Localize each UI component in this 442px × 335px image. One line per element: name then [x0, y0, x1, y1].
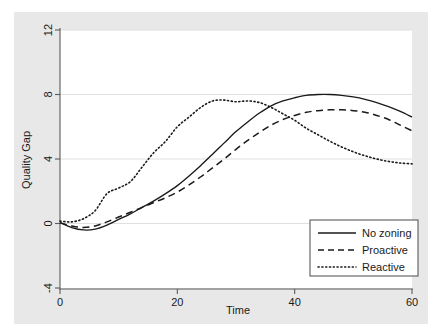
- legend-label-reactive: Reactive: [362, 261, 405, 273]
- legend-label-no-zoning: No zoning: [362, 227, 412, 239]
- chart-figure: -4048120204060 Quality Gap Time No zonin…: [0, 0, 442, 335]
- x-axis-title: Time: [226, 304, 250, 316]
- chart-legend: No zoning Proactive Reactive: [310, 220, 418, 276]
- y-tick-label: -4: [42, 283, 54, 293]
- y-axis-title: Quality Gap: [20, 131, 32, 189]
- x-tick-label: 60: [406, 296, 418, 308]
- x-tick-label: 40: [289, 296, 301, 308]
- x-tick-label: 20: [171, 296, 183, 308]
- y-tick-label: 0: [42, 220, 54, 226]
- legend-label-proactive: Proactive: [362, 244, 408, 256]
- y-tick-label: 8: [42, 91, 54, 97]
- x-tick-label: 0: [57, 296, 63, 308]
- y-tick-label: 12: [42, 24, 54, 36]
- y-tick-label: 4: [42, 156, 54, 162]
- line-chart: -4048120204060 Quality Gap Time No zonin…: [0, 0, 442, 335]
